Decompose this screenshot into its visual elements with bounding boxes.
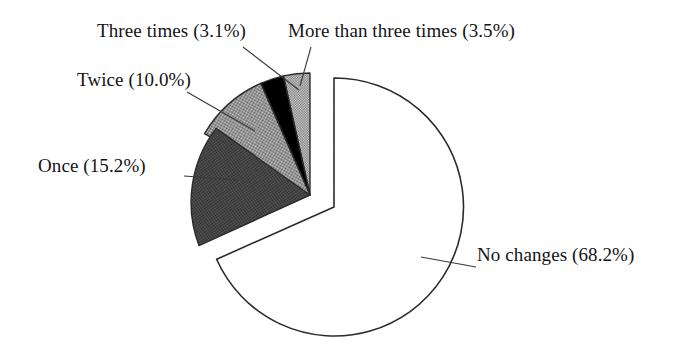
pie-label-once: Once (15.2%) [38, 155, 146, 177]
pie-label-more-than-three-times: More than three times (3.5%) [288, 20, 515, 42]
pie-label-twice: Twice (10.0%) [77, 69, 191, 91]
pie-label-three-times: Three times (3.1%) [97, 20, 246, 42]
pie-wedges [158, 70, 464, 336]
pie-label-no-changes: No changes (68.2%) [477, 244, 634, 266]
